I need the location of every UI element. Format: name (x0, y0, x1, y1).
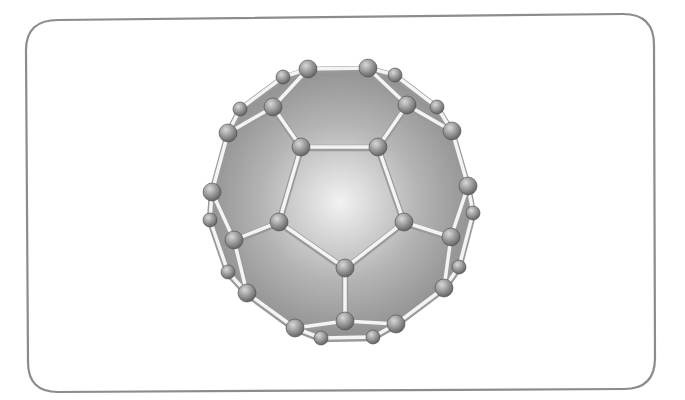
atom (221, 265, 235, 279)
atom (270, 213, 288, 231)
atom (398, 96, 416, 114)
atom (369, 138, 387, 156)
diagram-stage (0, 0, 685, 400)
atom (452, 260, 466, 274)
atom (366, 330, 380, 344)
atom (299, 60, 317, 78)
atom (264, 98, 282, 116)
atom (203, 183, 221, 201)
atom (466, 206, 480, 220)
bond (321, 337, 373, 338)
atom (430, 100, 444, 114)
atom (336, 259, 354, 277)
atom (225, 231, 243, 249)
atom (459, 177, 477, 195)
atom (203, 213, 217, 227)
atom (286, 319, 304, 337)
atom (395, 213, 413, 231)
fullerene-diagram (0, 0, 685, 400)
atom (276, 70, 290, 84)
atom (314, 331, 328, 345)
atom (336, 312, 354, 330)
atom (443, 122, 461, 140)
atom (359, 59, 377, 77)
atom (292, 138, 310, 156)
atom (387, 315, 405, 333)
atom (238, 284, 256, 302)
atom (435, 279, 453, 297)
atom (442, 228, 460, 246)
atom (233, 102, 247, 116)
atom (219, 124, 237, 142)
atom (388, 68, 402, 82)
